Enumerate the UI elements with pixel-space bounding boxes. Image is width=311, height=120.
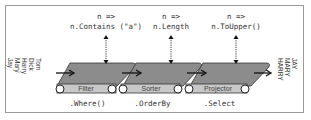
input-name: Dick bbox=[28, 58, 35, 88]
method-where: .Where() bbox=[60, 99, 115, 108]
lambda-connectors bbox=[106, 38, 236, 61]
input-name: Tom bbox=[35, 58, 42, 88]
lambda-head-3: n => bbox=[206, 12, 266, 21]
output-name: JAY bbox=[291, 58, 298, 90]
output-name: HARRY bbox=[277, 58, 284, 90]
output-name: MARY bbox=[284, 58, 291, 90]
output-names: JAY MARY HARRY bbox=[276, 58, 302, 90]
input-name: Mary bbox=[14, 58, 21, 88]
lambda-head-1: n => bbox=[76, 12, 136, 21]
belt-label-projector: Projector bbox=[194, 85, 242, 92]
lambda-head-2: n => bbox=[141, 12, 201, 21]
input-name: Jay bbox=[7, 58, 14, 88]
method-orderby: .OrderBy bbox=[125, 99, 180, 108]
input-name: Harry bbox=[21, 58, 28, 88]
belt-label-sorter: Sorter bbox=[128, 85, 174, 92]
method-select: .Select bbox=[192, 99, 247, 108]
belt-label-filter: Filter bbox=[64, 85, 108, 92]
lambda-body-1: n.Contains ("a") bbox=[66, 22, 146, 31]
input-names: Tom Dick Harry Mary Jay bbox=[12, 58, 56, 88]
lambda-body-3: n.ToUpper() bbox=[201, 22, 271, 31]
lambda-body-2: n.Length bbox=[141, 22, 201, 31]
